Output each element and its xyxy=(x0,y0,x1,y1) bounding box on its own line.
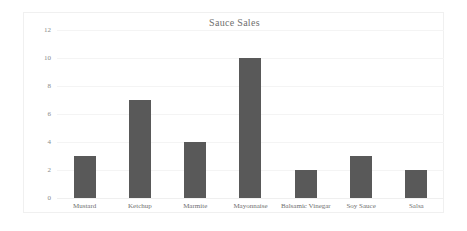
bar-group: Soy Sauce xyxy=(333,30,388,198)
bar[interactable] xyxy=(405,170,427,198)
bar-group: Marmite xyxy=(168,30,223,198)
y-axis-tick-label: 8 xyxy=(48,83,52,90)
bar-group: Balsamic Vinegar xyxy=(278,30,333,198)
bar[interactable] xyxy=(350,156,372,198)
chart-container: Sauce Sales 024681012 MustardKetchupMarm… xyxy=(23,12,444,213)
y-axis-tick-label: 4 xyxy=(48,139,52,146)
bar[interactable] xyxy=(74,156,96,198)
x-axis-tick-label: Marmite xyxy=(183,203,207,210)
bar[interactable] xyxy=(239,58,261,198)
x-axis-tick-label: Ketchup xyxy=(128,203,152,210)
x-axis-tick-label: Mustard xyxy=(73,203,96,210)
bar[interactable] xyxy=(295,170,317,198)
y-axis-tick-label: 0 xyxy=(48,195,52,202)
x-axis-tick-label: Soy Sauce xyxy=(346,203,375,210)
bar[interactable] xyxy=(129,100,151,198)
x-axis-tick-label: Salsa xyxy=(409,203,424,210)
y-axis-tick-label: 6 xyxy=(48,111,52,118)
gridline xyxy=(57,198,444,199)
y-axis-tick-label: 2 xyxy=(48,167,52,174)
bar-group: Mustard xyxy=(57,30,112,198)
chart-title: Sauce Sales xyxy=(24,17,445,28)
bar-group: Salsa xyxy=(389,30,444,198)
bar[interactable] xyxy=(184,142,206,198)
bar-group: Mayonnaise xyxy=(223,30,278,198)
x-axis-tick-label: Balsamic Vinegar xyxy=(281,203,331,210)
y-axis-tick-label: 10 xyxy=(44,55,51,62)
y-axis-tick-label: 12 xyxy=(44,27,51,34)
plot-area: 024681012 MustardKetchupMarmiteMayonnais… xyxy=(57,30,444,198)
bar-group: Ketchup xyxy=(112,30,167,198)
x-axis-tick-label: Mayonnaise xyxy=(233,203,267,210)
